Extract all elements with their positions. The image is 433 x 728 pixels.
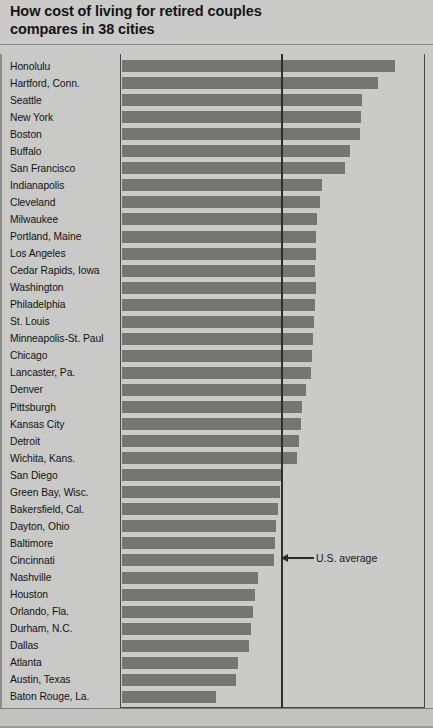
bar-austin-texas	[122, 674, 236, 686]
bar-los-angeles	[122, 248, 316, 260]
category-label-green-bay-wisc: Green Bay, Wisc.	[10, 486, 122, 499]
bar-bakersfield-cal	[122, 503, 278, 515]
bar-houston	[122, 589, 255, 601]
bar-st-louis	[122, 316, 314, 328]
bar-philadelphia	[122, 299, 315, 311]
category-label-chicago: Chicago	[10, 349, 122, 362]
bar-san-francisco	[122, 162, 345, 174]
category-label-dallas: Dallas	[10, 639, 122, 652]
bar-baltimore	[122, 537, 275, 549]
category-label-wichita-kans: Wichita, Kans.	[10, 452, 122, 465]
category-label-column: HonoluluHartford, Conn.SeattleNew YorkBo…	[0, 54, 120, 708]
category-label-austin-texas: Austin, Texas	[10, 673, 122, 686]
category-label-buffalo: Buffalo	[10, 145, 122, 158]
bar-dallas	[122, 640, 249, 652]
category-label-san-francisco: San Francisco	[10, 162, 122, 175]
category-label-los-angeles: Los Angeles	[10, 247, 122, 260]
bar-washington	[122, 282, 316, 294]
chart-page: How cost of living for retired couples c…	[0, 0, 433, 728]
bar-buffalo	[122, 145, 350, 157]
category-label-houston: Houston	[10, 588, 122, 601]
bar-green-bay-wisc	[122, 486, 280, 498]
category-label-boston: Boston	[10, 128, 122, 141]
bar-cleveland	[122, 196, 320, 208]
category-label-new-york: New York	[10, 111, 122, 124]
title-bar: How cost of living for retired couples c…	[0, 0, 433, 45]
bar-lancaster-pa	[122, 367, 311, 379]
bar-milwaukee	[122, 213, 317, 225]
category-label-baltimore: Baltimore	[10, 537, 122, 550]
category-label-kansas-city: Kansas City	[10, 418, 122, 431]
category-label-baton-rouge-la: Baton Rouge, La.	[10, 690, 122, 703]
category-label-indianapolis: Indianapolis	[10, 179, 122, 192]
bar-nashville	[122, 572, 258, 584]
bar-san-diego	[122, 469, 283, 481]
bottom-strip	[0, 708, 433, 728]
category-label-san-diego: San Diego	[10, 469, 122, 482]
category-label-hartford-conn: Hartford, Conn.	[10, 77, 122, 90]
category-label-honolulu: Honolulu	[10, 60, 122, 73]
bar-seattle	[122, 94, 362, 106]
bar-new-york	[122, 111, 361, 123]
category-label-minneapolis-st-paul: Minneapolis-St. Paul	[10, 332, 122, 345]
bar-kansas-city	[122, 418, 301, 430]
category-label-atlanta: Atlanta	[10, 656, 122, 669]
bar-denver	[122, 384, 306, 396]
category-label-portland-maine: Portland, Maine	[10, 230, 122, 243]
category-label-denver: Denver	[10, 383, 122, 396]
category-label-pittsburgh: Pittsburgh	[10, 401, 122, 414]
bar-boston	[122, 128, 360, 140]
category-label-nashville: Nashville	[10, 571, 122, 584]
bar-pittsburgh	[122, 401, 302, 413]
chart-plot-area: U.S. average	[120, 54, 425, 708]
category-label-milwaukee: Milwaukee	[10, 213, 122, 226]
category-label-durham-n-c: Durham, N.C.	[10, 622, 122, 635]
bar-durham-n-c	[122, 623, 251, 635]
category-label-philadelphia: Philadelphia	[10, 298, 122, 311]
category-label-bakersfield-cal: Bakersfield, Cal.	[10, 503, 122, 516]
title-divider	[0, 44, 433, 45]
bar-indianapolis	[122, 179, 322, 191]
category-label-seattle: Seattle	[10, 94, 122, 107]
category-label-cedar-rapids-iowa: Cedar Rapids, Iowa	[10, 264, 122, 277]
category-label-detroit: Detroit	[10, 435, 122, 448]
category-label-lancaster-pa: Lancaster, Pa.	[10, 366, 122, 379]
bar-chicago	[122, 350, 312, 362]
bar-honolulu	[122, 60, 395, 72]
category-label-dayton-ohio: Dayton, Ohio	[10, 520, 122, 533]
bars-layer	[121, 54, 424, 707]
category-label-cleveland: Cleveland	[10, 196, 122, 209]
bar-hartford-conn	[122, 77, 378, 89]
bar-dayton-ohio	[122, 520, 276, 532]
bar-portland-maine	[122, 231, 316, 243]
bar-detroit	[122, 435, 299, 447]
bar-minneapolis-st-paul	[122, 333, 313, 345]
category-label-st-louis: St. Louis	[10, 315, 122, 328]
us-average-reference-line	[281, 54, 283, 708]
bar-atlanta	[122, 657, 238, 669]
page-title: How cost of living for retired couples c…	[10, 3, 410, 38]
bar-baton-rouge-la	[122, 691, 216, 703]
category-label-cincinnati: Cincinnati	[10, 554, 122, 567]
bar-cedar-rapids-iowa	[122, 265, 315, 277]
bar-orlando-fla	[122, 606, 253, 618]
bar-cincinnati	[122, 554, 274, 566]
category-label-orlando-fla: Orlando, Fla.	[10, 605, 122, 618]
category-label-washington: Washington	[10, 281, 122, 294]
bar-wichita-kans	[122, 452, 297, 464]
